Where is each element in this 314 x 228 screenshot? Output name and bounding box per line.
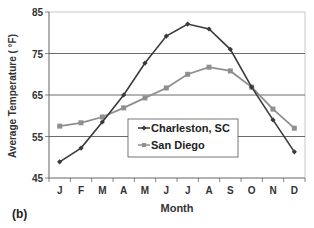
legend: Charleston, SCSan Diego [128,119,238,157]
x-tick-label: F [78,185,84,196]
x-tick-label: J [57,185,63,196]
x-tick-label: S [227,185,234,196]
x-axis-label: Month [161,202,194,214]
panel-label: (b) [12,207,27,221]
y-axis-label: Average Temperature ( °F) [7,34,18,158]
x-tick-label: M [98,185,106,196]
x-tick-label: A [205,185,212,196]
x-tick-label: D [291,185,298,196]
x-tick-label: J [164,185,170,196]
y-axis: 4555657585 [32,7,49,184]
data-point [143,95,148,100]
x-tick-label: N [269,185,276,196]
x-tick-label: J [185,185,191,196]
data-point [292,126,297,131]
y-tick-label: 55 [32,132,44,143]
data-point [57,124,62,129]
y-tick-label: 75 [32,49,44,60]
y-tick-label: 65 [32,90,44,101]
legend-entry: San Diego [151,139,205,151]
data-point [121,105,126,110]
legend-marker-square [142,143,146,147]
x-tick-label: M [141,185,149,196]
data-point [164,85,169,90]
x-axis: JFMAMJJASOND [49,178,305,196]
x-tick-label: A [120,185,127,196]
y-tick-label: 45 [32,173,44,184]
legend-entry: Charleston, SC [151,122,230,134]
x-tick-label: O [248,185,256,196]
data-point [228,68,233,73]
data-point [207,65,212,70]
data-point [185,72,190,77]
y-tick-label: 85 [32,7,44,18]
line-chart: 4555657585 JFMAMJJASOND Average Temperat… [0,0,314,228]
data-point [271,107,276,112]
data-point [79,120,84,125]
